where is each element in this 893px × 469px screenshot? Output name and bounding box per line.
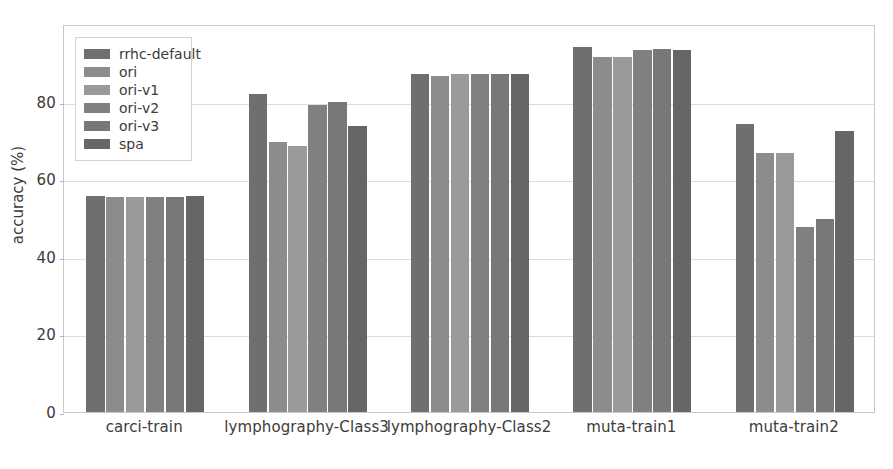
legend-swatch-icon (84, 103, 110, 113)
y-tick-label: 20 (4, 326, 56, 344)
bar (146, 197, 164, 412)
bar (106, 197, 124, 412)
y-tick-mark (60, 104, 64, 105)
bar (511, 74, 529, 412)
bar (816, 219, 834, 412)
bar (328, 102, 346, 412)
y-tick-mark (60, 181, 64, 182)
bar (308, 105, 326, 412)
legend-item-label: rrhc-default (119, 47, 201, 61)
legend-item-label: ori-v1 (119, 83, 159, 97)
legend-item-label: ori-v2 (119, 101, 159, 115)
y-tick-mark (60, 259, 64, 260)
y-tick-mark (60, 414, 64, 415)
bar (269, 142, 287, 412)
legend-swatch-icon (84, 85, 110, 95)
legend-item[interactable]: ori-v3 (84, 117, 183, 135)
legend-item[interactable]: spa (84, 135, 183, 153)
x-tick-label: muta-train1 (586, 418, 676, 436)
legend-item[interactable]: ori-v2 (84, 99, 183, 117)
bar (835, 131, 853, 412)
legend-swatch-icon (84, 49, 110, 59)
bar (471, 74, 489, 412)
legend-swatch-icon (84, 139, 110, 149)
x-axis-tick-labels: carci-trainlymphography-Class3lymphograp… (63, 418, 875, 448)
bar (796, 227, 814, 412)
y-axis-tick-labels: 020406080 (0, 25, 56, 413)
bar (126, 197, 144, 412)
legend-item-label: ori-v3 (119, 119, 159, 133)
y-tick-mark (60, 336, 64, 337)
bar-chart-figure: accuracy (%) 020406080 carci-trainlympho… (0, 0, 893, 469)
bar (491, 74, 509, 412)
y-tick-label: 0 (4, 404, 56, 422)
bar (451, 74, 469, 412)
bar (431, 76, 449, 412)
bar (186, 196, 204, 412)
bar (166, 197, 184, 412)
bar (653, 49, 671, 412)
bar (86, 196, 104, 412)
legend-item[interactable]: ori (84, 63, 183, 81)
x-tick-label: lymphography-Class2 (387, 418, 552, 436)
bar (776, 153, 794, 412)
bar (348, 126, 366, 412)
y-tick-label: 80 (4, 94, 56, 112)
bar (288, 146, 306, 412)
bar (756, 153, 774, 412)
x-tick-label: carci-train (106, 418, 183, 436)
x-tick-label: lymphography-Class3 (224, 418, 389, 436)
legend: rrhc-defaultoriori-v1ori-v2ori-v3spa (75, 37, 192, 161)
y-tick-label: 60 (4, 171, 56, 189)
bar (633, 50, 651, 412)
y-tick-label: 40 (4, 249, 56, 267)
legend-item-label: ori (119, 65, 137, 79)
bar (673, 50, 691, 412)
bar (593, 57, 611, 412)
bar (613, 57, 631, 412)
bar (411, 74, 429, 412)
legend-item-label: spa (119, 137, 144, 151)
legend-swatch-icon (84, 67, 110, 77)
bar (573, 47, 591, 412)
x-tick-label: muta-train2 (749, 418, 839, 436)
bar (736, 124, 754, 412)
legend-item[interactable]: ori-v1 (84, 81, 183, 99)
legend-swatch-icon (84, 121, 110, 131)
bar (249, 94, 267, 412)
legend-item[interactable]: rrhc-default (84, 45, 183, 63)
